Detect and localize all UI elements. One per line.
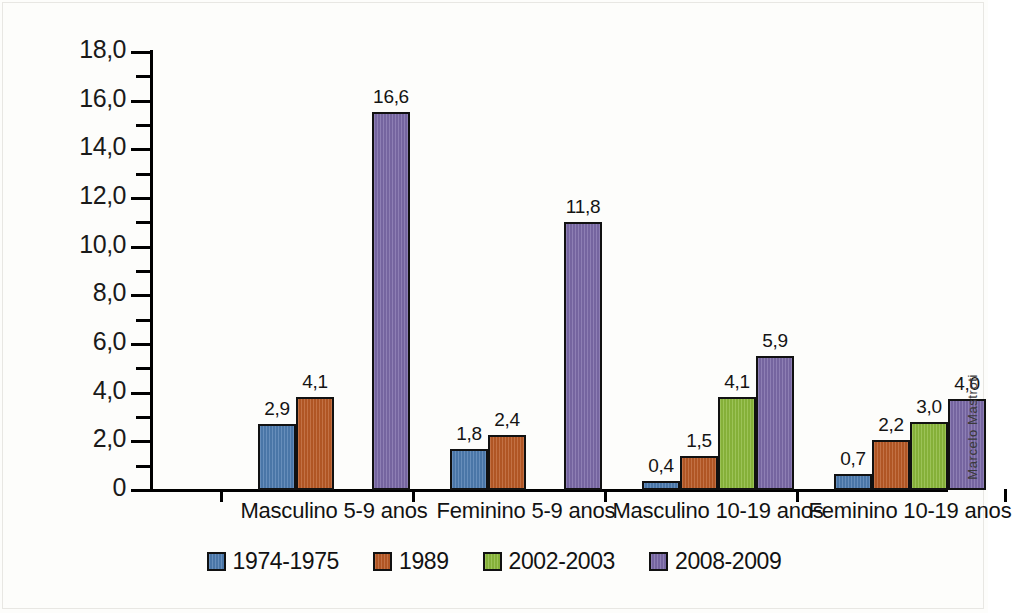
legend-swatch-texture: [209, 554, 224, 569]
bar-value-label: 0,4: [621, 455, 701, 477]
bar-value-label: 0,7: [813, 448, 893, 470]
legend-item[interactable]: 2008-2009: [649, 548, 781, 575]
bar: [372, 112, 410, 490]
legend-swatch: [483, 552, 502, 571]
legend-swatch-texture: [651, 554, 666, 569]
legend-swatch: [649, 552, 668, 571]
bar-texture: [260, 426, 294, 488]
legend-label: 2002-2003: [509, 548, 615, 575]
legend-item[interactable]: 2002-2003: [483, 548, 615, 575]
bar-texture: [566, 224, 600, 488]
legend-swatch: [207, 552, 226, 571]
legend-label: 1989: [399, 548, 449, 575]
bar: [642, 481, 680, 490]
credit-text: Marcelo Mastroti: [965, 374, 980, 480]
bar-value-label: 3,0: [889, 396, 969, 418]
bar-value-label: 2,9: [237, 398, 317, 420]
legend-swatch-texture: [485, 554, 500, 569]
bar-value-label: 4,1: [275, 371, 355, 393]
bar-value-label: 16,6: [351, 86, 431, 108]
legend-item[interactable]: 1974-1975: [207, 548, 339, 575]
bar-texture: [644, 483, 678, 488]
legend-swatch: [373, 552, 392, 571]
bar: [450, 449, 488, 490]
legend-swatch-texture: [375, 554, 390, 569]
bar-value-label: 4,1: [697, 371, 777, 393]
legend-label: 1974-1975: [233, 548, 339, 575]
bar-value-label: 1,5: [659, 430, 739, 452]
category-label: Feminino 10-19 anos: [790, 498, 1016, 524]
legend-label: 2008-2009: [675, 548, 781, 575]
bar: [834, 474, 872, 490]
bar: [564, 222, 602, 490]
bar-value-label: 2,4: [467, 409, 547, 431]
bar-texture: [452, 451, 486, 488]
bar-texture: [374, 114, 408, 488]
bar: [258, 424, 296, 490]
bar-value-label: 11,8: [543, 196, 623, 218]
chart-legend: 1974-197519892002-20032008-2009: [0, 548, 988, 575]
bar-value-label: 5,9: [735, 330, 815, 352]
legend-item[interactable]: 1989: [373, 548, 449, 575]
bar-texture: [836, 476, 870, 488]
